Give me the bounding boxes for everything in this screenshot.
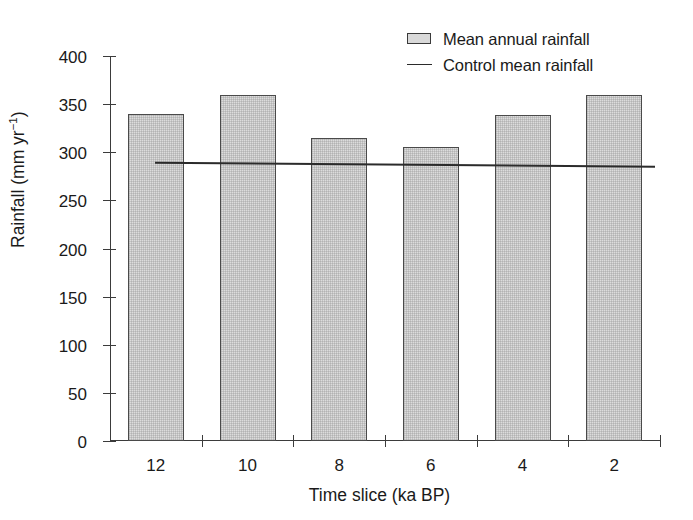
x-axis-tick-label: 6 — [426, 457, 435, 474]
y-axis-tick-label: 350 — [59, 97, 87, 114]
x-axis-tick — [660, 435, 661, 447]
legend-box-swatch-icon — [406, 26, 434, 52]
x-axis-title-wrap: Time slice (ka BP) — [0, 487, 693, 505]
x-axis-title: Time slice (ka BP) — [309, 487, 450, 505]
chart-figure: Mean annual rainfall Control mean rainfa… — [0, 0, 693, 520]
x-axis-tick-label: 4 — [518, 457, 527, 474]
legend-label-mean-annual-rainfall: Mean annual rainfall — [443, 31, 590, 48]
y-axis-tick-label: 250 — [59, 193, 87, 210]
y-axis-title-base: Rainfall (mm yr — [8, 130, 28, 248]
y-axis-title-tail: ) — [8, 111, 28, 117]
x-axis-tick-label: 12 — [146, 457, 165, 474]
y-axis-tick-label: 300 — [59, 145, 87, 162]
y-axis-tick-label: 150 — [59, 289, 87, 306]
x-axis-tick-label: 2 — [609, 457, 618, 474]
y-axis-tick-label: 50 — [68, 385, 87, 402]
y-axis-title-exponent: −1 — [7, 117, 19, 130]
y-axis-tick-label: 0 — [78, 434, 87, 451]
y-axis-tick-label: 100 — [59, 337, 87, 354]
y-axis-title: Rainfall (mm yr−1) — [10, 111, 28, 248]
x-axis-tick-label: 8 — [334, 457, 343, 474]
plot-area: 050100150200250300350400 12108642 — [110, 56, 660, 441]
x-axis-tick-label: 10 — [238, 457, 257, 474]
legend-item-mean-annual-rainfall: Mean annual rainfall — [406, 26, 686, 52]
y-axis-tick-label: 400 — [59, 49, 87, 66]
control-mean-rainfall-line — [110, 56, 660, 441]
y-axis-tick: 0 — [103, 441, 116, 442]
y-axis-tick-label: 200 — [59, 241, 87, 258]
